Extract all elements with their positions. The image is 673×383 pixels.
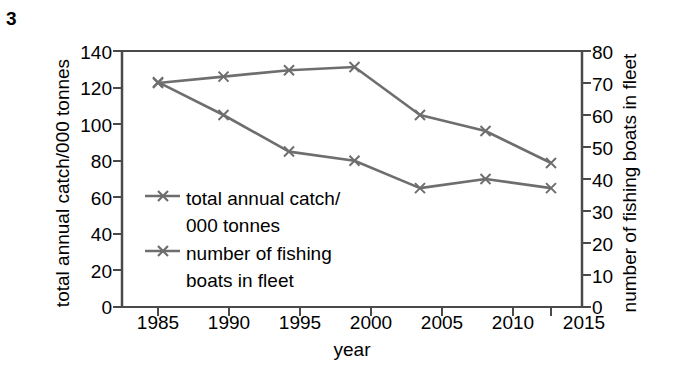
series-line <box>158 67 551 163</box>
legend-marker-1 <box>145 191 180 201</box>
data-series-layer <box>153 62 556 193</box>
legend-marker-2 <box>145 246 180 256</box>
chart-plot-svg <box>0 0 673 383</box>
series-2 <box>153 62 556 168</box>
y-left-ticks <box>113 51 122 307</box>
data-point-marker <box>546 158 556 168</box>
y-right-ticks <box>582 51 591 307</box>
x-ticks <box>158 307 551 316</box>
axis-frame <box>122 51 582 307</box>
figure-container: 3 total annual catch/000 tonnes number o… <box>0 0 673 383</box>
data-point-marker <box>219 110 229 120</box>
